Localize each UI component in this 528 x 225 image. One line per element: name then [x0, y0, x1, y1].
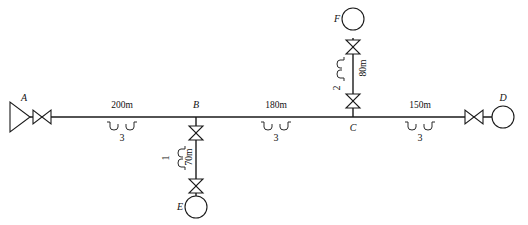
valve-f-top-wedge — [346, 40, 360, 47]
valve-a-icon[interactable] — [33, 110, 51, 124]
segment-cf-brace-bottom — [337, 70, 344, 81]
segment-cd-brace-left — [405, 122, 416, 130]
reservoir-triangle-icon — [10, 102, 30, 132]
segment-bc-brace-right — [280, 122, 291, 130]
valve-f-icon[interactable] — [346, 40, 360, 54]
valve-b-branch-icon[interactable] — [189, 126, 203, 140]
valve-e-top-wedge — [189, 179, 203, 186]
segment-be-annotation: 70m 1 — [160, 146, 194, 170]
segment-ab-brace-left — [107, 122, 118, 130]
valve-d-right-wedge — [474, 110, 483, 124]
node-d-group[interactable]: D — [492, 92, 514, 128]
segment-be-length: 70m — [184, 148, 194, 166]
segment-bc-annotation: 180m 3 — [261, 100, 291, 143]
node-f-group[interactable]: F — [333, 8, 364, 30]
valve-a-left-wedge — [33, 110, 42, 124]
segment-cd-brace-right — [424, 122, 435, 130]
segment-cf-length: 80m — [358, 59, 368, 77]
node-e-circle-icon — [185, 196, 207, 218]
node-label-b: B — [193, 99, 199, 110]
node-f-circle-icon — [342, 8, 364, 30]
valve-f-bottom-wedge — [346, 47, 360, 54]
segment-bc-length: 180m — [265, 100, 287, 110]
schematic-canvas: A 200m 3 B 70m 1 — [0, 0, 528, 225]
valve-c-branch-icon[interactable] — [346, 94, 360, 108]
node-d-circle-icon — [492, 106, 514, 128]
node-label-f: F — [333, 13, 341, 24]
segment-cd-diameter: 3 — [418, 132, 423, 143]
node-label-d: D — [498, 92, 507, 103]
valve-d-left-wedge — [465, 110, 474, 124]
node-label-e: E — [176, 201, 183, 212]
segment-ab-diameter: 3 — [120, 132, 125, 143]
segment-ab-annotation: 200m 3 — [107, 100, 137, 143]
segment-bc-brace-left — [261, 122, 272, 130]
valve-e-bottom-wedge — [189, 186, 203, 193]
pipe-network-diagram: A 200m 3 B 70m 1 — [0, 0, 528, 225]
valve-b-branch-top-wedge — [189, 126, 203, 133]
valve-e-icon[interactable] — [189, 179, 203, 193]
valve-c-branch-bottom-wedge — [346, 101, 360, 108]
node-label-a: A — [20, 92, 28, 103]
segment-ab-length: 200m — [111, 100, 133, 110]
node-e-group[interactable]: E — [176, 196, 207, 218]
segment-cf-brace-top — [337, 57, 344, 68]
node-label-c: C — [350, 122, 357, 133]
segment-cd-annotation: 150m 3 — [405, 100, 435, 143]
valve-b-branch-bottom-wedge — [189, 133, 203, 140]
segment-cf-diameter: 2 — [331, 86, 342, 91]
segment-ab-brace-right — [126, 122, 137, 130]
node-a-group[interactable]: A — [10, 92, 30, 132]
valve-a-right-wedge — [42, 110, 51, 124]
segment-be-diameter: 1 — [160, 156, 171, 161]
segment-cf-annotation: 80m 2 — [331, 57, 368, 91]
segment-cd-length: 150m — [409, 100, 431, 110]
segment-bc-diameter: 3 — [274, 132, 279, 143]
valve-c-branch-top-wedge — [346, 94, 360, 101]
valve-d-icon[interactable] — [465, 110, 483, 124]
